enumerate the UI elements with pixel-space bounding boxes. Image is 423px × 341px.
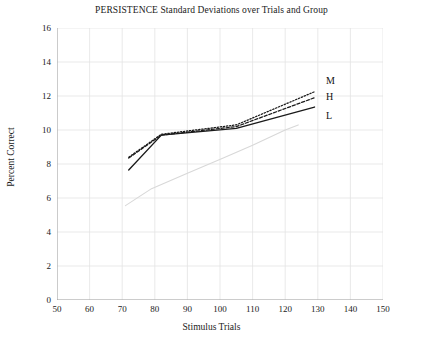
y-axis-title: Percent Correct	[6, 102, 16, 212]
x-axis-title: Stimulus Trials	[0, 322, 423, 332]
x-tick-label-150: 150	[368, 305, 398, 314]
series-label-H: H	[326, 92, 333, 102]
y-tick-label-8: 8	[27, 160, 51, 169]
x-tick-label-50: 50	[42, 305, 72, 314]
x-tick-label-110: 110	[238, 305, 268, 314]
y-tick-label-14: 14	[27, 58, 51, 67]
x-tick-label-100: 100	[205, 305, 235, 314]
x-tick-label-140: 140	[335, 305, 365, 314]
x-tick-label-120: 120	[270, 305, 300, 314]
y-tick-label-0: 0	[27, 296, 51, 305]
artifact-line	[125, 125, 298, 206]
series-label-M: M	[326, 76, 335, 86]
plot-svg	[57, 28, 383, 300]
y-tick-label-10: 10	[27, 126, 51, 135]
series-line-H	[129, 98, 315, 158]
x-tick-label-130: 130	[303, 305, 333, 314]
plot-area	[57, 28, 383, 300]
chart-root: PERSISTENCE Standard Deviations over Tri…	[0, 0, 423, 341]
x-tick-label-70: 70	[107, 305, 137, 314]
y-tick-label-12: 12	[27, 92, 51, 101]
chart-title: PERSISTENCE Standard Deviations over Tri…	[0, 5, 423, 15]
y-tick-label-4: 4	[27, 228, 51, 237]
y-tick-label-2: 2	[27, 262, 51, 271]
x-axis-tick-labels: 5060708090100110120130140150	[0, 305, 423, 319]
y-tick-label-6: 6	[27, 194, 51, 203]
gridlines	[57, 28, 383, 300]
x-tick-label-80: 80	[140, 305, 170, 314]
x-tick-label-90: 90	[172, 305, 202, 314]
x-tick-label-60: 60	[75, 305, 105, 314]
y-axis-tick-labels: 1614121086420	[25, 0, 51, 341]
y-tick-label-16: 16	[27, 24, 51, 33]
series-label-L: L	[326, 111, 332, 121]
series-line-M	[129, 92, 315, 157]
series-line-L	[129, 107, 315, 170]
